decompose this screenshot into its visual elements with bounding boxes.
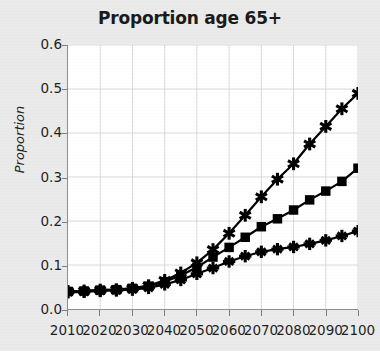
x-tick-mark <box>132 310 133 316</box>
chart-figure: Proportion age 65+ Proportion 0.00.10.20… <box>0 0 380 351</box>
marker-square <box>353 163 358 172</box>
marker-plus-star <box>207 262 219 274</box>
marker-plus-star <box>320 234 332 246</box>
x-tick-mark <box>196 310 197 316</box>
marker-square <box>257 222 266 231</box>
marker-square <box>240 233 249 242</box>
x-tick-label: 2100 <box>338 322 378 338</box>
y-tick-label: 0.2 <box>0 213 62 229</box>
marker-star <box>352 87 358 100</box>
marker-square <box>289 205 298 214</box>
marker-plus-star <box>255 246 267 258</box>
marker-plus-star <box>352 225 358 237</box>
marker-plus-star <box>287 241 299 253</box>
marker-square <box>273 214 282 223</box>
x-tick-mark <box>164 310 165 316</box>
x-tick-mark <box>229 310 230 316</box>
y-tick-label: 0.0 <box>0 301 62 317</box>
marker-square <box>224 243 233 252</box>
marker-plus-star <box>336 230 348 242</box>
x-tick-mark <box>261 310 262 316</box>
y-tick-label: 0.4 <box>0 124 62 140</box>
x-tick-mark <box>293 310 294 316</box>
x-tick-mark <box>326 310 327 316</box>
marker-plus-star <box>303 238 315 250</box>
marker-square <box>321 186 330 195</box>
marker-plus-star <box>239 250 251 262</box>
y-tick-label: 0.1 <box>0 257 62 273</box>
marker-square <box>337 177 346 186</box>
chart-title: Proportion age 65+ <box>0 8 380 28</box>
marker-square <box>305 195 314 204</box>
y-tick-label: 0.5 <box>0 80 62 96</box>
y-tick-label: 0.6 <box>0 36 62 52</box>
marker-plus-star <box>271 243 283 255</box>
marker-plus-star <box>223 255 235 267</box>
data-series-layer <box>68 45 358 309</box>
x-tick-mark <box>67 310 68 316</box>
x-tick-mark <box>99 310 100 316</box>
plot-area <box>67 45 358 310</box>
x-tick-mark <box>358 310 359 316</box>
y-tick-label: 0.3 <box>0 169 62 185</box>
marker-square <box>208 252 217 261</box>
